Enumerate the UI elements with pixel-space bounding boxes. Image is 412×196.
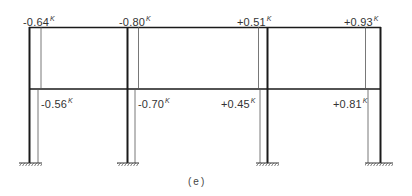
moment-label-lower-4: +0.81K bbox=[333, 95, 368, 110]
moment-diagram-lines bbox=[38, 27, 368, 163]
moment-value: -0.70 bbox=[138, 98, 164, 110]
moment-label-lower-3: +0.45K bbox=[221, 95, 256, 110]
moment-value: +0.51 bbox=[237, 16, 266, 28]
unit-superscript: K bbox=[165, 97, 170, 104]
moment-value: +0.81 bbox=[333, 98, 362, 110]
beams bbox=[29, 28, 381, 90]
moment-value: -0.64 bbox=[23, 16, 49, 28]
fixed-support-1 bbox=[19, 163, 42, 166]
unit-superscript: K bbox=[68, 97, 73, 104]
unit-superscript: K bbox=[267, 15, 272, 22]
unit-superscript: K bbox=[363, 97, 368, 104]
moment-label-lower-2: -0.70K bbox=[138, 95, 170, 110]
unit-superscript: K bbox=[251, 97, 256, 104]
columns bbox=[30, 27, 381, 163]
moment-label-upper-2: -0.80K bbox=[119, 13, 151, 28]
moment-label-lower-1: -0.56K bbox=[41, 95, 73, 110]
moment-value: +0.45 bbox=[221, 98, 250, 110]
moment-label-upper-3: +0.51K bbox=[237, 13, 272, 28]
moment-value: -0.56 bbox=[41, 98, 67, 110]
fixed-support-2 bbox=[117, 163, 139, 166]
moment-label-upper-4: +0.93K bbox=[344, 13, 379, 28]
unit-superscript: K bbox=[50, 15, 55, 22]
unit-superscript: K bbox=[374, 15, 379, 22]
moment-value: -0.80 bbox=[119, 16, 145, 28]
moment-label-upper-1: -0.64K bbox=[23, 13, 55, 28]
supports bbox=[19, 163, 393, 166]
moment-value: +0.93 bbox=[344, 16, 373, 28]
fixed-support-4 bbox=[365, 163, 393, 166]
figure-caption: (e) bbox=[188, 176, 206, 187]
unit-superscript: K bbox=[146, 15, 151, 22]
fixed-support-3 bbox=[256, 163, 279, 166]
